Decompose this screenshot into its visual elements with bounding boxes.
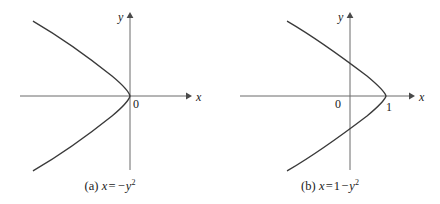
- caption-b-lead: (b): [301, 179, 316, 193]
- x-axis-arrowhead-b: [409, 93, 415, 100]
- caption-b-exponent: 2: [355, 178, 359, 187]
- x-tick-label-1-b: 1: [386, 100, 392, 114]
- caption-a-lead: (a): [84, 179, 98, 193]
- caption-a-lhs: x: [102, 179, 108, 193]
- y-axis-arrowhead-b: [347, 12, 354, 18]
- caption-a-sign: −: [117, 179, 126, 193]
- plot-a: y x 0: [0, 0, 220, 176]
- caption-a: (a) x=−y2: [0, 176, 220, 204]
- caption-a-equals: =: [108, 179, 117, 193]
- figure-container: y x 0 (a) x=−y2 y x 0: [0, 0, 440, 204]
- caption-a-exponent: 2: [131, 178, 135, 187]
- y-axis-label-b: y: [337, 10, 344, 24]
- caption-b-sign: −: [340, 179, 349, 193]
- plot-b: y x 0 1: [220, 0, 440, 176]
- x-axis-label-b: x: [418, 90, 425, 104]
- panel-b: y x 0 1 (b) x=1−y2: [220, 0, 440, 204]
- origin-label-a: 0: [133, 97, 139, 111]
- caption-b-lhs: x: [319, 179, 325, 193]
- y-axis-arrowhead-a: [127, 12, 134, 18]
- y-axis-label-a: y: [117, 10, 124, 24]
- x-axis-arrowhead-a: [186, 93, 192, 100]
- panel-a: y x 0 (a) x=−y2: [0, 0, 220, 204]
- caption-b-equals: =: [325, 179, 334, 193]
- caption-b: (b) x=1−y2: [220, 176, 440, 204]
- x-axis-label-a: x: [195, 90, 202, 104]
- origin-label-b: 0: [335, 97, 341, 111]
